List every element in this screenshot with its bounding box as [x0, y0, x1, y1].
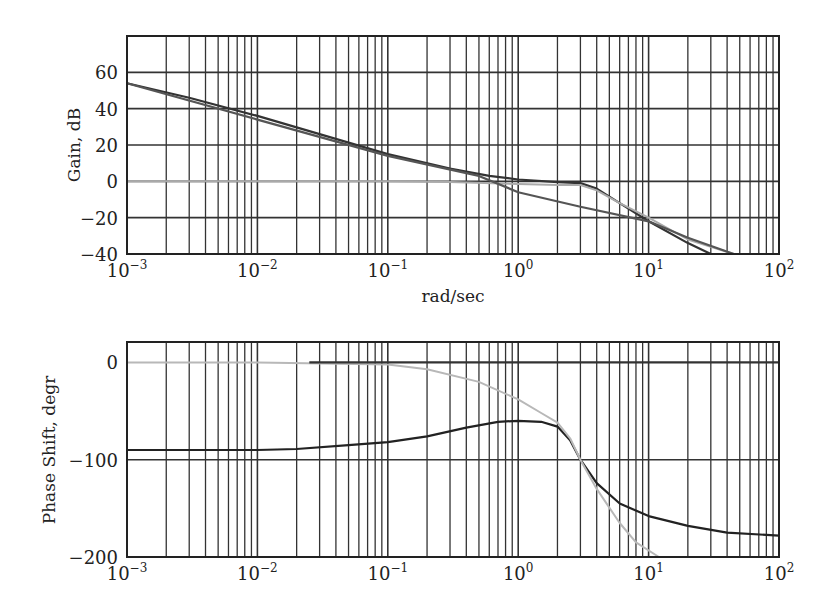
x-tick-label: 10−3 [107, 258, 148, 281]
series-open-loop-phase [127, 421, 779, 536]
x-tick-label: 101 [633, 561, 664, 584]
phase-y-tick-labels: 0−100−200 [69, 352, 118, 568]
x-tick-label: 10−1 [367, 258, 408, 281]
x-tick-label: 10−2 [237, 561, 278, 584]
y-tick-label: −100 [69, 450, 118, 471]
gain-x-tick-labels: 10−310−210−1100101102 [107, 258, 795, 281]
x-tick-label: 100 [503, 258, 534, 281]
y-tick-label: 60 [95, 62, 118, 83]
x-tick-label: 102 [764, 561, 795, 584]
y-tick-label: −20 [80, 208, 118, 229]
x-tick-label: 102 [764, 258, 795, 281]
x-tick-label: 10−3 [107, 561, 148, 584]
y-tick-label: 20 [95, 135, 118, 156]
y-tick-label: 40 [95, 99, 118, 120]
x-tick-label: 100 [503, 561, 534, 584]
y-tick-label: 0 [107, 352, 118, 373]
gain-plot: 6040200−20−40 10−310−210−1100101102 Gain… [64, 36, 794, 306]
gain-grid [127, 36, 779, 254]
bode-plot-figure: 6040200−20−40 10−310−210−1100101102 Gain… [0, 0, 827, 615]
x-tick-label: 10−2 [237, 258, 278, 281]
x-tick-label: 10−1 [367, 561, 408, 584]
gain-y-tick-labels: 6040200−20−40 [80, 62, 118, 265]
phase-y-axis-label: Phase Shift, degr [39, 375, 59, 524]
phase-x-tick-labels: 10−310−210−1100101102 [107, 561, 795, 584]
gain-y-axis-label: Gain, dB [64, 108, 84, 182]
x-axis-label: rad/sec [421, 286, 484, 306]
phase-plot: 0−100−200 10−310−210−1100101102 Phase Sh… [39, 342, 794, 584]
y-tick-label: 0 [107, 171, 118, 192]
x-tick-label: 101 [633, 258, 664, 281]
